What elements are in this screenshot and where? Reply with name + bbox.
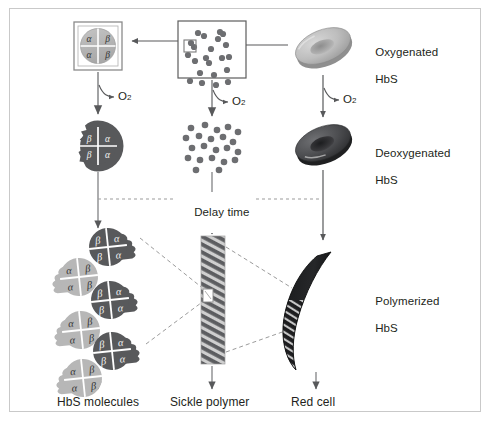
oxygenated-hbs-line2: HbS: [375, 73, 398, 85]
polymerized-hbs-line1: Polymerized: [375, 295, 439, 307]
o2-label-3: O2: [343, 93, 356, 105]
polymerized-hbs-line2: HbS: [375, 322, 398, 334]
red-cell-label: Red cell: [291, 396, 335, 410]
o2-label-1: O2: [118, 90, 131, 102]
deoxygenated-hbs-line1: Deoxygenated: [375, 147, 450, 159]
oxygenated-hbs-line1: Oxygenated: [375, 46, 438, 58]
o2-label-2: O2: [232, 95, 245, 107]
polymerized-hbs-label: Polymerized HbS: [362, 281, 440, 349]
delay-time-label: Delay time: [177, 192, 254, 233]
hbs-molecules-label: HbS molecules: [57, 396, 139, 410]
figure-canvas: α β α β β α β α: [0, 0, 492, 437]
oxygenated-hbs-label: Oxygenated HbS: [362, 32, 438, 100]
sickle-polymer-label: Sickle polymer: [170, 396, 249, 410]
deoxygenated-hbs-line2: HbS: [375, 174, 398, 186]
deoxygenated-hbs-label: Deoxygenated HbS: [362, 133, 451, 201]
